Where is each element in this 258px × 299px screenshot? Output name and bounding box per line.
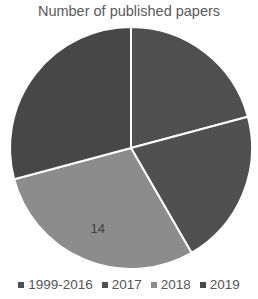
- legend-item-2019[interactable]: 2019: [200, 277, 240, 292]
- legend-label: 2018: [161, 277, 191, 292]
- legend-item-1999-2016[interactable]: 1999-2016: [18, 277, 93, 292]
- legend-label: 1999-2016: [28, 277, 93, 292]
- legend-item-2018[interactable]: 2018: [151, 277, 191, 292]
- legend-swatch: [18, 282, 24, 288]
- chart-legend: 1999-2016 2017 2018 2019: [0, 277, 258, 292]
- legend-label: 2017: [112, 277, 142, 292]
- pie-slices: [10, 27, 252, 269]
- legend-swatch: [151, 282, 157, 288]
- legend-label: 2019: [210, 277, 240, 292]
- pie-data-labels: 14: [90, 221, 104, 236]
- legend-swatch: [200, 282, 206, 288]
- legend-item-2017[interactable]: 2017: [102, 277, 142, 292]
- legend-swatch: [102, 282, 108, 288]
- data-label: 14: [90, 221, 104, 236]
- pie-chart: 14: [0, 0, 258, 299]
